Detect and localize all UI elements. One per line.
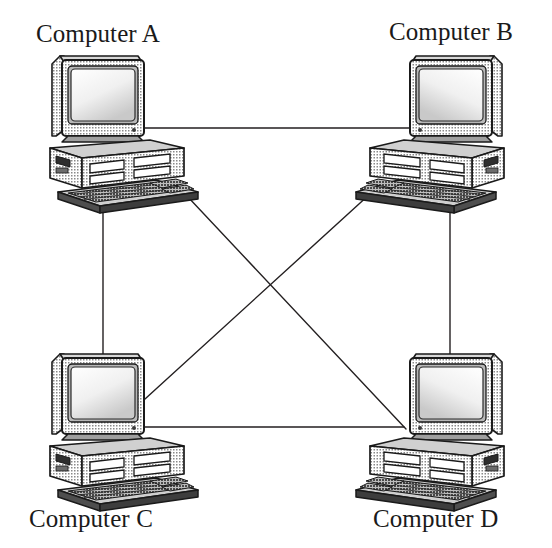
node-label-a: Computer A [36, 20, 160, 48]
node-icon-a[interactable] [50, 56, 198, 213]
node-label-b: Computer B [389, 18, 513, 46]
node-icon-c[interactable] [50, 354, 198, 511]
node-icon-b[interactable] [356, 56, 504, 213]
link-a-d [172, 180, 406, 429]
diagram-svg [0, 0, 552, 548]
node-label-c: Computer C [29, 505, 153, 533]
network-diagram-canvas: Computer A Computer B Computer C Compute… [0, 0, 552, 548]
node-icon-d[interactable] [356, 354, 504, 511]
node-label-d: Computer D [373, 505, 498, 533]
